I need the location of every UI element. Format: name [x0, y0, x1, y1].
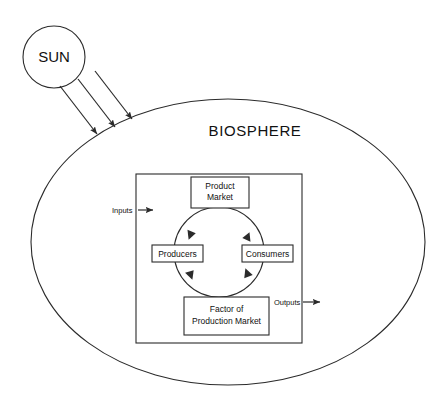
sun-label: SUN [38, 48, 70, 65]
biosphere-label: BIOSPHERE [209, 122, 302, 139]
inputs-label: Inputs [112, 206, 133, 215]
box-factor-of-production-market-line-1: Factor of [210, 304, 244, 314]
sun-ray-arrow-icon [60, 86, 97, 134]
sun-ray-arrow-icon [78, 79, 115, 127]
box-consumers-label: Consumers [246, 249, 289, 259]
diagram-canvas: BIOSPHERE SUN Product Market [0, 0, 439, 414]
sun-ray-arrow-icon [95, 71, 132, 119]
box-product-market-line-1: Product [205, 181, 235, 191]
box-producers-label: Producers [158, 249, 197, 259]
biosphere-economy-diagram: BIOSPHERE SUN Product Market [0, 0, 439, 414]
box-factor-of-production-market-line-2: Production Market [192, 316, 262, 326]
box-product-market-line-2: Market [207, 192, 234, 202]
outputs-label: Outputs [274, 298, 301, 307]
